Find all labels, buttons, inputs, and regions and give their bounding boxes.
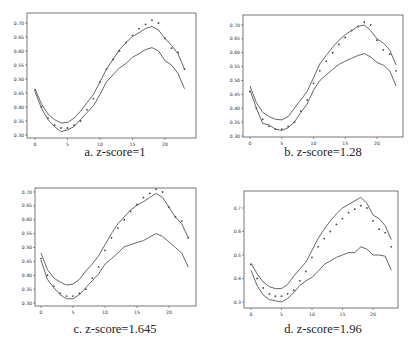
- data-point: [275, 295, 277, 297]
- data-point: [378, 228, 380, 230]
- upper-bound-line: [251, 197, 391, 288]
- data-point: [305, 271, 307, 273]
- x-tick-label: 10: [309, 312, 315, 317]
- data-point: [384, 232, 386, 234]
- data-point: [311, 256, 313, 258]
- data-point: [317, 246, 319, 248]
- data-point: [354, 208, 356, 210]
- data-point: [390, 246, 392, 248]
- data-point: [329, 231, 331, 233]
- y-tick-label: 0.4: [234, 276, 241, 281]
- data-point: [366, 207, 368, 209]
- data-point: [268, 293, 270, 295]
- data-point: [256, 278, 258, 280]
- data-point: [360, 205, 362, 207]
- data-point: [293, 289, 295, 291]
- data-point: [299, 280, 301, 282]
- x-tick-label: 15: [340, 312, 346, 317]
- data-point: [323, 238, 325, 240]
- y-tick-label: 0.3: [234, 300, 241, 305]
- caption-d: d. z-score=1.96: [263, 322, 383, 337]
- data-point: [281, 295, 283, 297]
- data-point: [262, 287, 264, 289]
- line-chart-d: 0.30.40.50.60.705101520: [0, 0, 414, 350]
- y-tick-label: 0.6: [234, 229, 241, 234]
- data-point: [336, 224, 338, 226]
- data-point: [287, 293, 289, 295]
- lower-bound-line: [251, 247, 391, 302]
- data-point: [372, 220, 374, 222]
- x-tick-label: 0: [250, 312, 253, 317]
- y-tick-label: 0.5: [234, 253, 241, 258]
- y-tick-label: 0.7: [234, 206, 241, 211]
- data-point: [348, 212, 350, 214]
- x-tick-label: 5: [280, 312, 283, 317]
- plot-frame: [244, 191, 398, 308]
- x-tick-label: 20: [370, 312, 376, 317]
- data-point: [342, 218, 344, 220]
